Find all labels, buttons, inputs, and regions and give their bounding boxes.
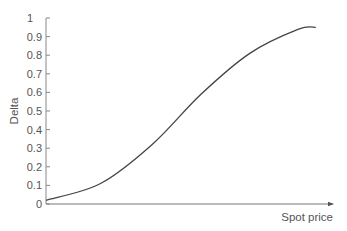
y-tick-label: 0.9 [27,31,42,43]
y-tick-label: 0 [36,198,42,210]
delta-chart: 0 0.1 0.2 0.3 0.4 0.5 0.6 0.7 0.8 0.9 1 … [0,0,347,231]
delta-curve [46,27,316,201]
y-tick-labels: 0 0.1 0.2 0.3 0.4 0.5 0.6 0.7 0.8 0.9 1 [27,12,42,210]
y-tick-label: 0.7 [27,68,42,80]
y-tick-label: 0.6 [27,86,42,98]
y-tick-label: 0.8 [27,49,42,61]
y-ticks [46,18,50,204]
y-tick-label: 0.3 [27,142,42,154]
x-axis-label: Spot price [281,211,333,223]
y-tick-label: 1 [27,12,33,24]
y-tick-label: 0.1 [27,179,42,191]
y-tick-label: 0.4 [27,124,42,136]
y-tick-label: 0.5 [27,105,42,117]
y-tick-label: 0.2 [27,161,42,173]
y-axis-label: Delta [8,97,20,124]
